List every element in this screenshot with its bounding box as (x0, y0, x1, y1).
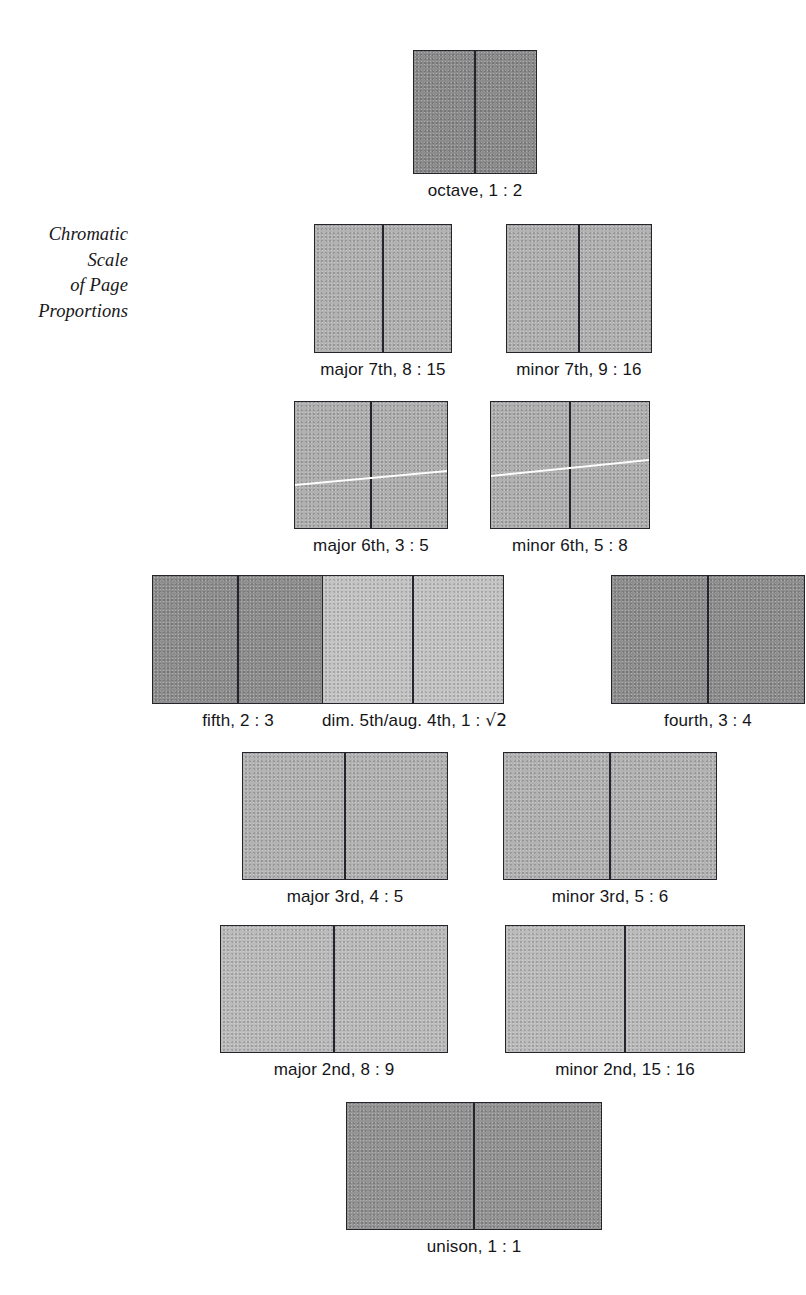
page-spread-major-2nd (220, 925, 448, 1053)
page-spread-minor-3rd (503, 752, 717, 880)
spread-item-dim-5th-aug-4th: dim. 5th/aug. 4th, 1 : √2 (322, 575, 504, 731)
page-spread-minor-2nd (505, 925, 745, 1053)
spread-item-major-7th: major 7th, 8 : 15 (314, 224, 452, 380)
page-spread-fourth (611, 575, 805, 704)
gutter-line (412, 576, 414, 703)
spread-item-minor-3rd: minor 3rd, 5 : 6 (503, 752, 717, 907)
page-spread-dim-5th-aug-4th (322, 575, 504, 704)
spread-label-major-6th: major 6th, 3 : 5 (294, 535, 448, 556)
spread-item-minor-2nd: minor 2nd, 15 : 16 (505, 925, 745, 1080)
spread-label-fourth: fourth, 3 : 4 (611, 710, 805, 731)
spread-item-octave: octave, 1 : 2 (413, 50, 537, 201)
spread-label-major-3rd: major 3rd, 4 : 5 (242, 886, 448, 907)
spread-item-fifth: fifth, 2 : 3 (152, 575, 324, 731)
page-spread-fifth (152, 575, 324, 704)
spread-label-unison: unison, 1 : 1 (346, 1236, 602, 1257)
spread-item-minor-7th: minor 7th, 9 : 16 (506, 224, 652, 380)
spread-label-octave: octave, 1 : 2 (413, 180, 537, 201)
figure-title: Chromatic Scale of Page Proportions (0, 222, 128, 324)
spread-label-minor-3rd: minor 3rd, 5 : 6 (503, 886, 717, 907)
spread-label-major-2nd: major 2nd, 8 : 9 (220, 1059, 448, 1080)
spread-label-dim-5th-aug-4th: dim. 5th/aug. 4th, 1 : √2 (322, 710, 504, 731)
gutter-line (473, 1103, 475, 1229)
gutter-line (578, 225, 580, 352)
gutter-line (237, 576, 239, 703)
spread-item-major-3rd: major 3rd, 4 : 5 (242, 752, 448, 907)
spread-item-unison: unison, 1 : 1 (346, 1102, 602, 1257)
gutter-line (333, 926, 335, 1052)
page-spread-major-6th (294, 401, 448, 529)
spread-label-text: dim. 5th/aug. 4th, 1 : (322, 711, 485, 730)
spread-item-major-2nd: major 2nd, 8 : 9 (220, 925, 448, 1080)
page-spread-minor-7th (506, 224, 652, 353)
spread-label-minor-7th: minor 7th, 9 : 16 (506, 359, 652, 380)
page-spread-major-3rd (242, 752, 448, 880)
spread-item-major-6th: major 6th, 3 : 5 (294, 401, 448, 556)
gutter-line (344, 753, 346, 879)
gutter-line (569, 402, 571, 528)
spread-label-minor-2nd: minor 2nd, 15 : 16 (505, 1059, 745, 1080)
gutter-line (474, 51, 476, 173)
spread-label-minor-6th: minor 6th, 5 : 8 (490, 535, 650, 556)
page-spread-major-7th (314, 224, 452, 353)
page-spread-unison (346, 1102, 602, 1230)
page-spread-minor-6th (490, 401, 650, 529)
gutter-line (609, 753, 611, 879)
gutter-line (624, 926, 626, 1052)
gutter-line (707, 576, 709, 703)
spread-label-fifth: fifth, 2 : 3 (152, 710, 324, 731)
gutter-line (382, 225, 384, 352)
gutter-line (370, 402, 372, 528)
page-spread-octave (413, 50, 537, 174)
radical-glyph: √2 (485, 710, 507, 730)
spread-item-minor-6th: minor 6th, 5 : 8 (490, 401, 650, 556)
spread-item-fourth: fourth, 3 : 4 (611, 575, 805, 731)
spread-label-major-7th: major 7th, 8 : 15 (314, 359, 452, 380)
